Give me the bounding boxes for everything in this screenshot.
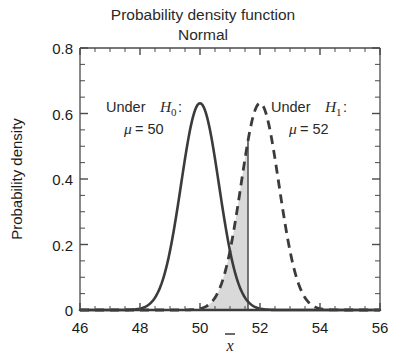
annotation-h1-line1-subscript: 1: [336, 106, 342, 118]
x-tick-label: 50: [192, 319, 209, 336]
annotation-h0-line1-suffix: :: [178, 99, 182, 115]
probability-density-chart: Probability density function Normal Prob…: [0, 0, 406, 363]
annotation-h0-line1-prefix: Under: [106, 99, 146, 115]
y-tick-label: 0.4: [52, 171, 73, 188]
y-tick-label: 0: [65, 302, 73, 319]
y-tick-label: 0.8: [52, 40, 73, 57]
x-tick-label: 46: [72, 319, 89, 336]
annotation-h1-line2-symbol: μ: [288, 120, 297, 137]
y-tick-label: 0.2: [52, 237, 73, 254]
annotation-h0-line2-text: = 50: [135, 121, 164, 137]
annotation-h1-line1-suffix: :: [343, 99, 347, 115]
annotation-h0-line1-subscript: 0: [171, 106, 177, 118]
chart-title: Probability density function: [111, 6, 295, 23]
x-axis-label-glyph: x: [225, 337, 233, 354]
y-tick-label: 0.6: [52, 106, 73, 123]
y-axis-label: Probability density: [8, 118, 25, 240]
chart-subtitle: Normal: [178, 26, 228, 43]
figure-container: Probability density function Normal Prob…: [0, 0, 406, 363]
x-tick-label: 56: [372, 319, 389, 336]
x-axis-label: x: [225, 334, 235, 354]
annotation-h0-line2-symbol: μ: [123, 120, 132, 137]
x-tick-label: 54: [312, 319, 329, 336]
annotation-h1-line2-text: = 52: [300, 121, 329, 137]
x-tick-label: 52: [252, 319, 269, 336]
annotation-h1-line1-prefix: Under: [271, 99, 311, 115]
x-tick-label: 48: [132, 319, 149, 336]
